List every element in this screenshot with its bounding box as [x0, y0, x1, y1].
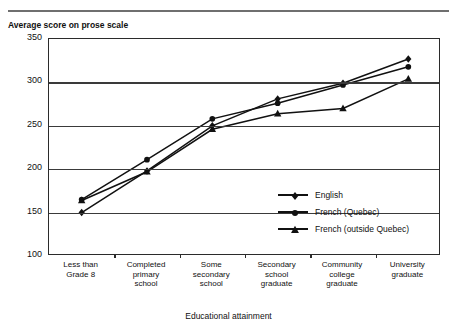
line-chart: Average score on prose scale 10015020025…	[0, 0, 457, 335]
series-circle	[79, 64, 411, 203]
x-axis-category-label: Universitygraduate	[375, 260, 440, 279]
y-axis-tick-label: 250	[10, 119, 42, 129]
y-axis-tick-label: 100	[10, 249, 42, 259]
series-triangle	[78, 75, 412, 203]
legend-label: English	[308, 190, 343, 200]
legend-item: French (outside Quebec)	[278, 220, 438, 237]
y-axis-tick-label: 300	[10, 75, 42, 85]
legend-item: English	[278, 186, 438, 203]
x-axis-category-label: Communitycollegegraduate	[309, 260, 374, 289]
x-axis-category-label: Somesecondaryschool	[179, 260, 244, 289]
gridline	[49, 169, 439, 170]
y-axis-title: Average score on prose scale	[8, 20, 128, 30]
legend-item: French (Quebec)	[278, 203, 438, 220]
gridline	[49, 82, 439, 83]
x-axis-tick	[310, 254, 311, 258]
legend-label: French (outside Quebec)	[308, 224, 409, 234]
triangle-marker	[278, 223, 308, 235]
x-axis-tick	[245, 254, 246, 258]
y-axis-tick-label: 150	[10, 206, 42, 216]
gridline	[49, 126, 439, 127]
x-axis-category-label: Secondaryschoolgraduate	[244, 260, 309, 289]
x-axis-tick	[376, 254, 377, 258]
x-axis-tick	[180, 254, 181, 258]
x-axis-category-label: Less thanGrade 8	[48, 260, 113, 279]
x-axis-title: Educational attainment	[0, 311, 457, 321]
diamond-marker	[278, 189, 308, 201]
circle-marker	[278, 206, 308, 218]
x-axis-category-label: Completedprimaryschool	[113, 260, 178, 289]
x-axis-tick	[114, 254, 115, 258]
legend-label: French (Quebec)	[308, 207, 379, 217]
chart-legend: EnglishFrench (Quebec)French (outside Qu…	[278, 186, 438, 237]
y-axis-tick-label: 200	[10, 162, 42, 172]
y-axis-tick-label: 350	[10, 32, 42, 42]
